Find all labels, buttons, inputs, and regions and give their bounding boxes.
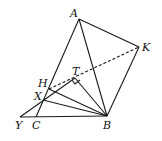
segment-KB [107, 47, 139, 116]
segment-XB [43, 100, 107, 116]
label-X: X [33, 90, 43, 103]
label-Y: Y [15, 119, 24, 132]
label-B: B [102, 119, 111, 132]
label-A: A [69, 7, 78, 20]
segment-TB [75, 78, 107, 116]
segment-AK [79, 19, 139, 47]
segment-YB [20, 116, 107, 117]
segment-HT-dashed [49, 47, 139, 89]
segment-HB [49, 89, 107, 116]
label-H: H [37, 77, 48, 90]
label-T: T [72, 65, 81, 78]
geometry-diagram: A K B Y C H X T [0, 0, 162, 141]
label-K: K [141, 41, 151, 54]
label-C: C [32, 119, 41, 132]
segment-AB [79, 19, 107, 116]
